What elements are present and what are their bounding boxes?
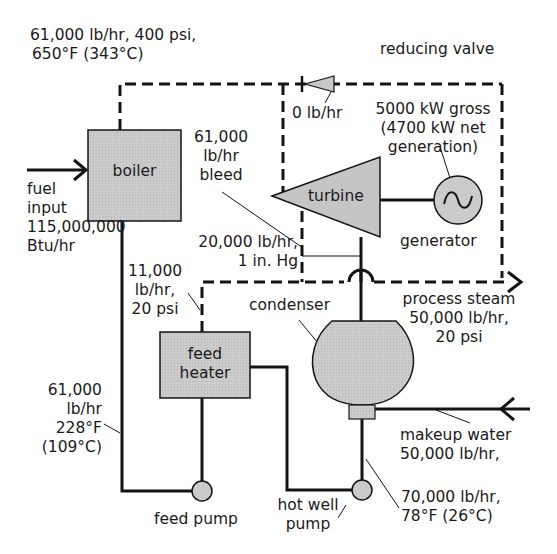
fuel-input-label: fuel input 115,000,000 Btu/hr (27, 180, 126, 256)
hot-well-pump-line-2: pump (272, 515, 344, 534)
extraction-line-1: 11,000 (122, 262, 188, 281)
feed-heater-label: feed heater (160, 345, 250, 383)
feed-pump-circle (192, 481, 212, 501)
extraction-line-3: 20 psi (122, 300, 188, 319)
boiler-outlet-line-1: 61,000 lb/hr, 400 psi, (30, 26, 196, 45)
exhaust-label: 20,000 lb/hr, 1 in. Hg (198, 233, 298, 271)
feed-heater-line-2: heater (160, 364, 250, 383)
extraction-line-2: lb/hr, (122, 281, 188, 300)
condensate-label: 70,000 lb/hr, 78°F (26°C) (401, 488, 501, 526)
reducing-valve-label: reducing valve (380, 40, 494, 59)
makeup-water-label: makeup water 50,000 lb/hr, (400, 426, 511, 464)
process-steam-line-1: process steam (396, 290, 522, 309)
reducing-valve-icon (302, 76, 334, 92)
fuel-input-line-4: Btu/hr (27, 237, 126, 256)
bleed-line-1: 61,000 (186, 128, 256, 147)
feedwater-line-4: (109°C) (30, 438, 102, 457)
generator-label: generator (400, 232, 477, 251)
boiler-outlet-label: 61,000 lb/hr, 400 psi, 650°F (343°C) (30, 26, 196, 64)
boiler-outlet-line-2: 650°F (343°C) (30, 45, 196, 64)
feedwater-line-3: 228°F (30, 419, 102, 438)
process-steam-arrow-icon (508, 272, 521, 292)
turbine-output-line-2: (4700 kW net (366, 119, 500, 138)
turbine-output-line-1: 5000 kW gross (366, 100, 500, 119)
exhaust-line-1: 20,000 lb/hr, (198, 233, 298, 252)
fuel-input-arrow-icon (27, 160, 86, 180)
turbine-label: turbine (308, 187, 364, 206)
fuel-input-line-2: input (27, 199, 126, 218)
process-steam-label: process steam 50,000 lb/hr, 20 psi (396, 290, 522, 347)
makeup-water-line-2: 50,000 lb/hr, (400, 445, 511, 464)
hot-well-box (349, 405, 375, 419)
makeup-water-line-1: makeup water (400, 426, 511, 445)
bleed-label: 61,000 lb/hr bleed (186, 128, 256, 185)
feed-heater-line-1: feed (160, 345, 250, 364)
process-steam-line-2: 50,000 lb/hr, (396, 309, 522, 328)
turbine-output-label: 5000 kW gross (4700 kW net generation) (366, 100, 500, 157)
turbine-output-line-3: generation) (366, 138, 500, 157)
condensate-line-2: 78°F (26°C) (401, 507, 501, 526)
fuel-input-line-1: fuel (27, 180, 126, 199)
fuel-input-line-3: 115,000,000 (27, 218, 126, 237)
hot-well-pump-circle (352, 480, 372, 500)
condenser-label: condenser (249, 296, 330, 315)
bypass-flow-label: 0 lb/hr (292, 104, 342, 123)
feedwater-line-2: lb/hr (30, 400, 102, 419)
hot-well-pump-label: hot well pump (272, 496, 344, 534)
cogeneration-diagram: 61,000 lb/hr, 400 psi, 650°F (343°C) red… (0, 0, 557, 554)
condensate-line-1: 70,000 lb/hr, (401, 488, 501, 507)
feedwater-label: 61,000 lb/hr 228°F (109°C) (30, 381, 102, 457)
process-steam-line-3: 20 psi (396, 328, 522, 347)
bleed-line-2: lb/hr (186, 147, 256, 166)
boiler-label: boiler (88, 162, 181, 181)
hot-well-pump-line-1: hot well (272, 496, 344, 515)
bleed-line-3: bleed (186, 166, 256, 185)
diagram-lines (0, 0, 557, 554)
extraction-label: 11,000 lb/hr, 20 psi (122, 262, 188, 319)
exhaust-line-2: 1 in. Hg (198, 252, 298, 271)
feed-pump-label: feed pump (154, 510, 238, 529)
feedwater-line-1: 61,000 (30, 381, 102, 400)
